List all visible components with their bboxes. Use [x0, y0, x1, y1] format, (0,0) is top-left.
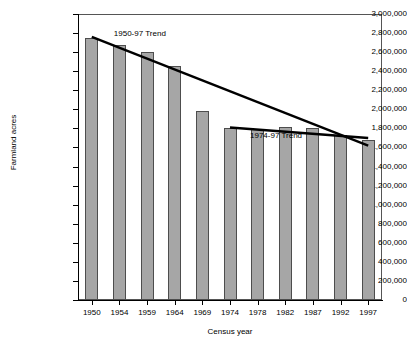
x-tick-mark — [202, 300, 203, 305]
bar — [362, 140, 375, 300]
x-tick-label: 1997 — [348, 308, 388, 317]
x-tick-mark — [147, 300, 148, 305]
bar — [141, 52, 154, 300]
y-tick-mark — [73, 147, 78, 148]
x-tick-mark — [368, 300, 369, 305]
trend-line-label: 1950-97 Trend — [114, 29, 166, 38]
y-tick-mark — [73, 14, 78, 15]
trend-line-label: 1974-97 Trend — [250, 131, 302, 140]
y-tick-mark — [73, 262, 78, 263]
y-tick-mark — [73, 224, 78, 225]
bar — [334, 135, 347, 300]
y-tick-mark — [73, 109, 78, 110]
bar — [251, 129, 264, 300]
bar — [224, 128, 237, 300]
y-tick-mark — [73, 243, 78, 244]
bar — [196, 111, 209, 300]
y-tick-mark — [73, 205, 78, 206]
y-tick-mark — [73, 52, 78, 53]
bar — [306, 128, 319, 300]
y-tick-mark — [73, 281, 78, 282]
bar-series — [79, 15, 381, 300]
y-tick-mark — [73, 167, 78, 168]
farmland-acres-bar-chart: 0200,000400,000600,000800,0001,000,0001,… — [0, 0, 407, 347]
x-axis-title: Census year — [78, 327, 382, 336]
x-tick-mark — [175, 300, 176, 305]
y-tick-mark — [73, 128, 78, 129]
y-tick-mark — [73, 300, 78, 301]
x-tick-mark — [285, 300, 286, 305]
x-tick-mark — [341, 300, 342, 305]
bar — [168, 66, 181, 300]
x-tick-mark — [258, 300, 259, 305]
y-tick-mark — [73, 71, 78, 72]
y-axis-title: Farmland acres — [9, 83, 18, 203]
bar — [279, 127, 292, 300]
y-tick-mark — [73, 186, 78, 187]
y-tick-mark — [73, 33, 78, 34]
bar — [113, 45, 126, 300]
x-tick-mark — [313, 300, 314, 305]
x-tick-mark — [119, 300, 120, 305]
y-tick-mark — [73, 90, 78, 91]
x-tick-mark — [92, 300, 93, 305]
bar — [85, 38, 98, 300]
x-tick-mark — [230, 300, 231, 305]
